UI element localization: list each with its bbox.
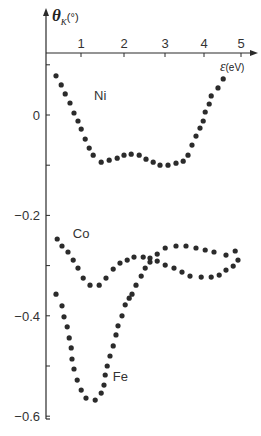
data-point [199,275,204,280]
data-point [187,274,192,279]
data-point [155,259,160,264]
data-point [201,118,206,123]
data-point [171,266,176,271]
data-point [71,366,76,371]
data-point [59,303,64,308]
data-point [223,253,228,258]
data-point [59,82,64,87]
data-point [111,267,116,272]
data-point [75,118,80,123]
data-point [87,146,92,151]
y-axis-arrow-icon [43,8,49,16]
data-point [69,356,74,361]
data-point [83,396,88,401]
kerr-rotation-chart: 123450−0.2−0.4−0.6 θK(°) ε(eV) NiCoFe [0,0,261,436]
x-axis-title: ε(eV) [220,59,244,74]
data-point [163,263,168,268]
y-tick-label: −0.6 [14,409,40,424]
data-point [209,275,214,280]
data-point [189,143,194,148]
data-point [179,270,184,275]
data-point [215,85,220,90]
data-point [223,268,228,273]
x-tick-label: 4 [200,36,207,51]
x-axis-arrow-icon [250,50,258,56]
data-point [117,261,122,266]
data-point [165,163,170,168]
data-point [233,248,238,253]
data-point [143,157,148,162]
data-point [65,324,70,329]
data-point [75,266,80,271]
data-point [75,378,80,383]
y-tick-label: 0 [33,108,40,123]
data-point [113,332,118,337]
data-point [197,126,202,131]
data-point [125,258,130,263]
data-point [139,274,144,279]
data-point [87,283,92,288]
data-point [231,264,236,269]
data-point [151,160,156,165]
data-point [173,161,178,166]
data-point [163,245,168,250]
data-point [93,398,98,403]
data-point [99,160,104,165]
data-point [115,323,120,328]
series-label-ni: Ni [94,88,106,103]
data-point [207,101,212,106]
data-point [183,243,188,248]
data-point [79,388,84,393]
x-tick-label: 5 [237,36,244,51]
x-tick-label: 3 [161,36,168,51]
data-point [55,236,60,241]
data-point [53,292,58,297]
data-point [61,314,66,319]
data-point [67,335,72,340]
data-point [65,249,70,254]
data-point [211,249,216,254]
data-point [147,260,152,265]
data-point [71,258,76,263]
data-point [59,243,64,248]
data-point [193,134,198,139]
data-point [217,273,222,278]
series-label-fe: Fe [113,369,128,384]
data-point [185,153,190,158]
data-point [103,276,108,281]
data-point [131,255,136,260]
data-point [181,159,186,164]
data-point [173,243,178,248]
data-point [203,109,208,114]
data-point [129,292,134,297]
data-point [101,383,106,388]
data-point [235,258,240,263]
data-point [157,163,162,168]
data-point [209,93,214,98]
series-ni [53,73,225,168]
x-tick-label: 2 [120,36,127,51]
y-axis-title: θK(°) [52,6,79,27]
data-point [69,345,74,350]
data-point [143,266,148,271]
data-point [129,152,134,157]
series-fe [53,243,237,402]
data-point [121,153,126,158]
y-tick-label: −0.2 [14,208,40,223]
y-tick-label: −0.4 [14,309,40,324]
data-point [119,313,124,318]
data-point [63,91,68,96]
data-point [203,247,208,252]
series-labels: NiCoFe [73,88,128,384]
x-tick-label: 1 [77,36,84,51]
series-label-co: Co [73,226,90,241]
data-point [123,302,128,307]
data-point [107,353,112,358]
data-point [97,283,102,288]
data-point [111,343,116,348]
data-point [133,283,138,288]
data-point [103,372,108,377]
data-point [99,391,104,396]
data-point [115,156,120,161]
data-point [83,137,88,142]
